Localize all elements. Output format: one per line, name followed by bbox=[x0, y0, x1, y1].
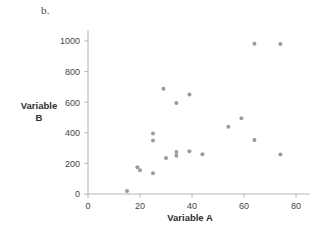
scatter-point bbox=[151, 132, 155, 136]
x-tick-label: 60 bbox=[239, 201, 249, 211]
x-tick-label: 20 bbox=[135, 201, 145, 211]
scatter-point bbox=[278, 153, 282, 157]
scatter-point bbox=[174, 101, 178, 105]
scatter-point bbox=[187, 93, 191, 97]
scatter-point bbox=[174, 154, 178, 158]
scatter-point bbox=[138, 168, 142, 172]
axes-group bbox=[88, 30, 310, 194]
scatter-plot-figure: b. Variable B Variable A 020040060080010… bbox=[0, 0, 325, 232]
scatter-point bbox=[135, 165, 139, 169]
scatter-point bbox=[164, 156, 168, 160]
x-tick-label: 40 bbox=[187, 201, 197, 211]
scatter-point bbox=[174, 150, 178, 154]
scatter-point bbox=[161, 87, 165, 91]
scatter-point bbox=[252, 138, 256, 142]
scatter-point bbox=[278, 42, 282, 46]
x-tick-label: 0 bbox=[85, 201, 90, 211]
plot-canvas: 02004006008001000 020406080 bbox=[0, 0, 325, 232]
scatter-point bbox=[187, 149, 191, 153]
y-tick-label: 0 bbox=[75, 189, 80, 199]
y-tick-group: 02004006008001000 bbox=[60, 36, 88, 199]
y-tick-label: 1000 bbox=[60, 36, 80, 46]
scatter-point bbox=[125, 189, 129, 193]
scatter-point bbox=[151, 171, 155, 175]
y-tick-label: 600 bbox=[65, 98, 80, 108]
scatter-point bbox=[200, 152, 204, 156]
scatter-point bbox=[239, 116, 243, 120]
scatter-point bbox=[151, 138, 155, 142]
x-tick-group: 020406080 bbox=[85, 194, 301, 211]
y-tick-label: 400 bbox=[65, 128, 80, 138]
y-tick-label: 800 bbox=[65, 67, 80, 77]
y-tick-label: 200 bbox=[65, 159, 80, 169]
data-points-group bbox=[125, 42, 282, 193]
scatter-point bbox=[252, 42, 256, 46]
scatter-point bbox=[226, 125, 230, 129]
x-tick-label: 80 bbox=[291, 201, 301, 211]
